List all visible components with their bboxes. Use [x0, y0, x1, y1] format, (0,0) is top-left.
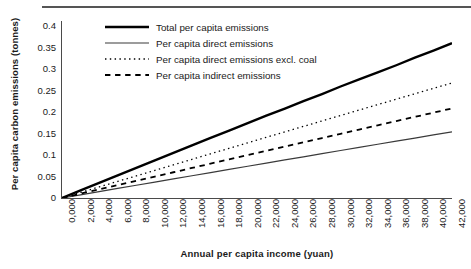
y-tick-label: 0.4 — [22, 21, 56, 31]
legend-key-solid-icon — [105, 38, 149, 48]
legend-item: Per capita direct emissions excl. coal — [105, 51, 317, 67]
x-tick-label: 38,000 — [419, 199, 431, 245]
legend-key-solid-icon — [105, 22, 149, 32]
legend-label: Per capita direct emissions — [156, 38, 273, 49]
figure-top-rule — [42, 6, 471, 8]
series-line-1 — [62, 132, 452, 198]
x-tick-label: 16,000 — [215, 199, 227, 245]
chart-figure: Per capita carbon emissions (tonnes) 00.… — [0, 0, 471, 269]
x-tick-label: 18,000 — [233, 199, 245, 245]
y-axis-title: Per capita carbon emissions (tonnes) — [9, 9, 23, 199]
y-axis-tick-labels: 00.050.10.150.20.250.30.350.4 — [22, 0, 56, 269]
y-tick-label: 0.05 — [22, 172, 56, 182]
y-tick-label: 0.1 — [22, 150, 56, 160]
x-tick-label: 30,000 — [345, 199, 357, 245]
x-tick-label: 0,000 — [66, 199, 78, 245]
y-tick-label: 0.3 — [22, 64, 56, 74]
legend-label: Per capita direct emissions excl. coal — [156, 54, 317, 65]
x-tick-label: 14,000 — [196, 199, 208, 245]
x-tick-label: 28,000 — [326, 199, 338, 245]
legend-label: Total per capita emissions — [156, 22, 269, 33]
y-tick-label: 0.25 — [22, 86, 56, 96]
legend-key-dashed-icon — [105, 70, 149, 80]
x-tick-label: 42,000 — [456, 199, 468, 245]
x-tick-label: 12,000 — [177, 199, 189, 245]
x-tick-label: 2,000 — [85, 199, 97, 245]
legend-item: Total per capita emissions — [105, 19, 317, 35]
y-tick-label: 0.35 — [22, 43, 56, 53]
x-tick-label: 36,000 — [400, 199, 412, 245]
x-tick-label: 22,000 — [270, 199, 282, 245]
x-tick-label: 20,000 — [252, 199, 264, 245]
y-tick-label: 0.15 — [22, 129, 56, 139]
x-tick-label: 34,000 — [382, 199, 394, 245]
legend-item: Per capita indirect emissions — [105, 67, 317, 83]
x-tick-label: 4,000 — [103, 199, 115, 245]
y-tick-label: 0.2 — [22, 107, 56, 117]
chart-legend: Total per capita emissionsPer capita dir… — [105, 19, 317, 83]
x-tick-label: 26,000 — [307, 199, 319, 245]
legend-label: Per capita indirect emissions — [156, 70, 281, 81]
y-tick-label: 0 — [22, 193, 56, 203]
x-tick-label: 10,000 — [159, 199, 171, 245]
series-line-2 — [62, 83, 452, 198]
x-tick-label: 6,000 — [122, 199, 134, 245]
x-tick-label: 32,000 — [363, 199, 375, 245]
x-tick-label: 24,000 — [289, 199, 301, 245]
legend-key-dotted-icon — [105, 54, 149, 64]
series-line-3 — [62, 108, 452, 198]
x-tick-label: 8,000 — [140, 199, 152, 245]
x-axis-tick-labels: 0,0002,0004,0006,0008,00010,00012,00014,… — [62, 199, 452, 247]
x-tick-label: 40,000 — [437, 199, 449, 245]
x-axis-title: Annual per capita income (yuan) — [62, 248, 452, 259]
legend-item: Per capita direct emissions — [105, 35, 317, 51]
